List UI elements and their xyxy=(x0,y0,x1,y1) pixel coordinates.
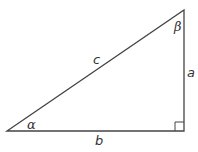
right-triangle-diagram: c a b α β xyxy=(0,0,198,152)
hypotenuse-label: c xyxy=(93,52,100,67)
angle-beta-label: β xyxy=(173,19,182,34)
right-angle-marker xyxy=(175,122,184,131)
triangle-shape xyxy=(7,10,184,131)
side-a-label: a xyxy=(187,65,195,80)
angle-alpha-label: α xyxy=(27,117,36,132)
side-b-label: b xyxy=(95,133,103,148)
